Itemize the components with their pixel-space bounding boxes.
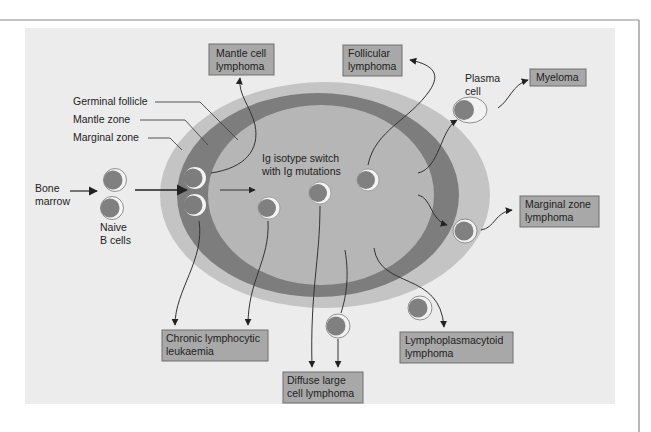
mantle-cell-lymphoma-line1: Mantle cell bbox=[216, 47, 266, 59]
marginal-zone-label: Marginal zone bbox=[73, 131, 139, 143]
myeloma-line1: Myeloma bbox=[536, 71, 579, 83]
naive-b-cells-label-line1: Naive bbox=[100, 221, 127, 233]
bone-marrow-label-line2: marrow bbox=[35, 195, 70, 207]
b-cell-lymphoma-origin-diagram: Germinal follicle Mantle zone Marginal z… bbox=[0, 0, 651, 432]
mantle-cell-lymphoma-line2: lymphoma bbox=[216, 60, 265, 72]
cll-line1: Chronic lymphocytic bbox=[166, 332, 260, 344]
marginal-zone-lymphoma-line2: lymphoma bbox=[525, 211, 574, 223]
box-lymphoplasmacytoid-lymphoma[interactable]: Lymphoplasmacytoid lymphoma bbox=[400, 332, 513, 363]
box-marginal-zone-lymphoma[interactable]: Marginal zone lymphoma bbox=[520, 196, 599, 227]
germinal-follicle-label: Germinal follicle bbox=[73, 95, 148, 107]
marginal-zone-cell bbox=[453, 219, 477, 243]
diffuse-large-line2: cell lymphoma bbox=[287, 387, 354, 399]
diffuse-large-line1: Diffuse large bbox=[287, 374, 346, 386]
marginal-zone-lymphoma-line1: Marginal zone bbox=[525, 198, 591, 210]
mantle-zone-label: Mantle zone bbox=[73, 113, 130, 125]
box-diffuse-large-cell-lymphoma[interactable]: Diffuse large cell lymphoma bbox=[283, 372, 363, 403]
germinal-cell-1 bbox=[258, 197, 280, 219]
lower-cell-diffuse bbox=[326, 314, 350, 338]
plasma-cell bbox=[453, 97, 487, 123]
box-myeloma[interactable]: Myeloma bbox=[530, 69, 586, 86]
plasma-cell-label-line1: Plasma bbox=[465, 72, 500, 84]
naive-b-cell-1 bbox=[104, 169, 127, 192]
plasma-cell-label-line2: cell bbox=[465, 85, 481, 97]
cll-line2: leukaemia bbox=[166, 345, 214, 357]
germinal-cell-2 bbox=[309, 182, 331, 204]
lower-cell-lymphoplasmacytoid bbox=[408, 296, 432, 320]
germinal-cell-3 bbox=[357, 169, 379, 191]
isotype-switch-label-line2: with Ig mutations bbox=[261, 165, 341, 177]
naive-b-cells-label-line2: B cells bbox=[100, 234, 131, 246]
box-chronic-lymphocytic-leukaemia[interactable]: Chronic lymphocytic leukaemia bbox=[162, 330, 268, 361]
follicular-lymphoma-line2: lymphoma bbox=[348, 60, 397, 72]
lymphoplasmacytoid-line1: Lymphoplasmacytoid bbox=[405, 334, 503, 346]
box-follicular-lymphoma[interactable]: Follicular lymphoma bbox=[343, 45, 402, 76]
lymphoplasmacytoid-line2: lymphoma bbox=[405, 347, 454, 359]
follicular-lymphoma-line1: Follicular bbox=[348, 47, 391, 59]
isotype-switch-label-line1: Ig isotype switch bbox=[262, 152, 339, 164]
box-mantle-cell-lymphoma[interactable]: Mantle cell lymphoma bbox=[209, 44, 274, 75]
bone-marrow-label-line1: Bone bbox=[35, 182, 60, 194]
naive-b-cell-2 bbox=[101, 197, 124, 220]
